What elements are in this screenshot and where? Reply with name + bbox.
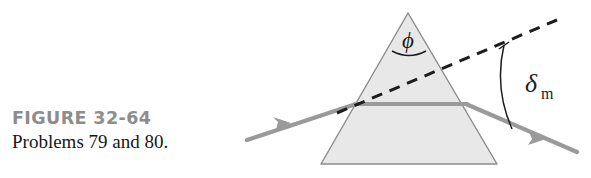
prism-diagram: ϕ δ m <box>0 0 591 178</box>
deviation-angle-subscript: m <box>541 85 554 102</box>
deviation-angle-arc <box>500 45 512 129</box>
figure-container: FIGURE 32-64 Problems 79 and 80. ϕ δ m <box>0 0 591 178</box>
apex-angle-label: ϕ <box>402 28 414 53</box>
deviation-angle-label: δ <box>525 69 538 98</box>
